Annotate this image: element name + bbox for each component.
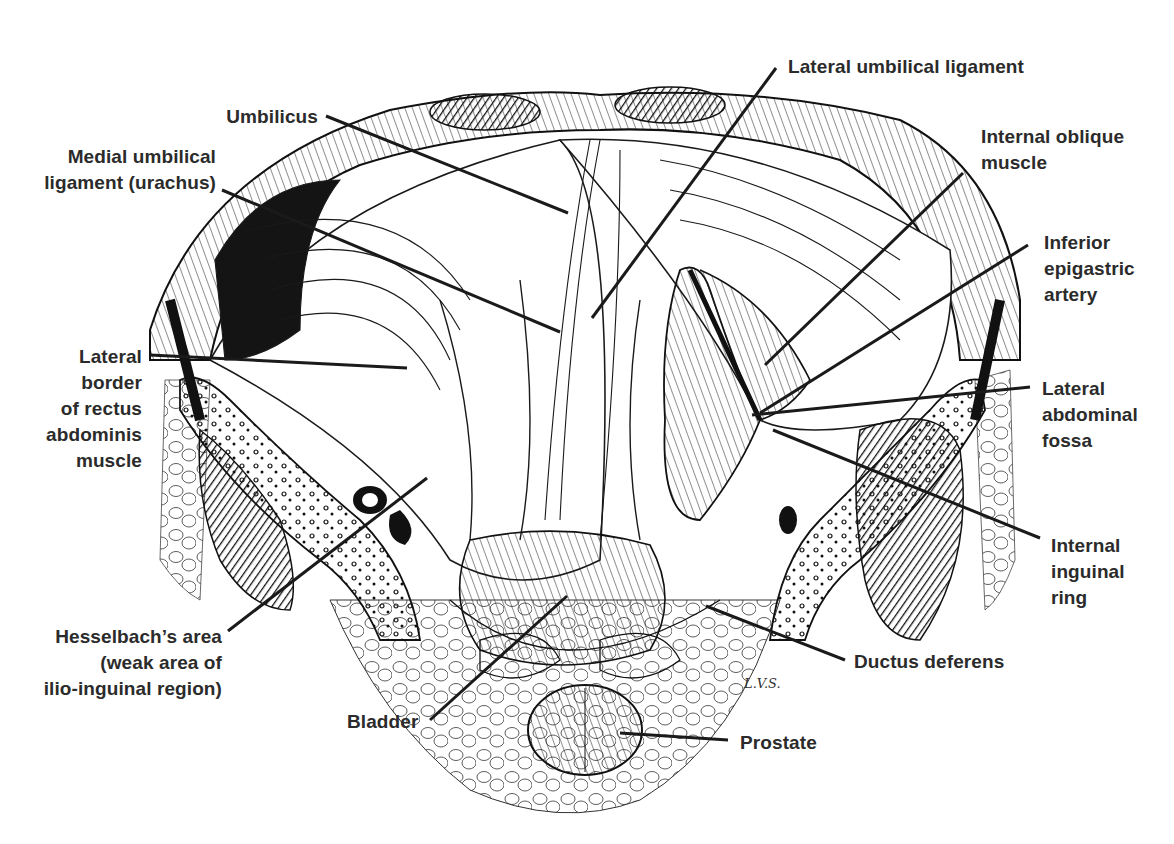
label-umbilicus: Umbilicus (218, 104, 318, 130)
label-lateral-umbilical-ligament: Lateral umbilical ligament (788, 54, 1024, 80)
label-bladder: Bladder (347, 709, 418, 735)
label-internal-inguinal-ring: Internal inguinal ring (1051, 533, 1125, 611)
label-internal-oblique-muscle: Internal oblique muscle (981, 124, 1124, 176)
label-ductus-deferens: Ductus deferens (854, 649, 1004, 675)
label-lateral-border-rectus: Lateral border of rectus abdominis muscl… (20, 344, 142, 474)
label-medial-umbilical-ligament: Medial umbilical ligament (urachus) (20, 144, 216, 196)
label-lateral-abdominal-fossa: Lateral abdominal fossa (1042, 376, 1138, 454)
label-hesselbachs-area: Hesselbach’s area (weak area of ilio-ing… (0, 624, 222, 702)
prostate-shape (528, 685, 642, 775)
label-inferior-epigastric-artery: Inferior epigastric artery (1044, 230, 1135, 308)
label-prostate: Prostate (740, 730, 817, 756)
artist-signature: L.V.S. (744, 676, 781, 691)
